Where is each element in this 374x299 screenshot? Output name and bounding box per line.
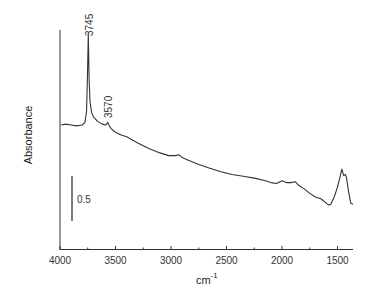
x-tick-label: 2500 bbox=[215, 255, 238, 266]
x-axis-ticks bbox=[60, 246, 338, 250]
x-tick-label: 1500 bbox=[326, 255, 349, 266]
x-tick-label: 3500 bbox=[104, 255, 127, 266]
peak-annotation-3570: 3570 bbox=[103, 95, 114, 118]
y-axis-label: Absorbance bbox=[22, 106, 34, 165]
x-axis-tick-labels: 400035003000250020001500 bbox=[49, 255, 349, 266]
x-tick-label: 2000 bbox=[271, 255, 294, 266]
peak-annotation-3745: 3745 bbox=[84, 13, 95, 36]
x-axis-label: cm-1 bbox=[196, 271, 218, 286]
spectrum-line bbox=[61, 34, 353, 205]
scale-bar-label: 0.5 bbox=[77, 194, 91, 205]
x-axis-label-superscript: -1 bbox=[211, 271, 219, 280]
x-tick-label: 4000 bbox=[49, 255, 72, 266]
x-tick-label: 3000 bbox=[160, 255, 183, 266]
x-axis-label-base: cm bbox=[196, 274, 211, 286]
ir-spectrum-chart: 400035003000250020001500 3745 3570 0.5 A… bbox=[0, 0, 374, 299]
